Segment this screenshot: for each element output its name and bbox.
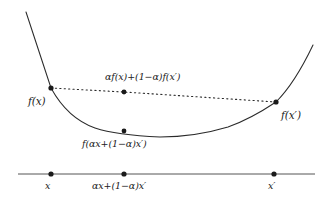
axis-label-midpoint: αx+(1−α)x′ bbox=[92, 181, 146, 191]
point-chord-mid bbox=[122, 90, 127, 95]
label-f-x: f(x) bbox=[28, 96, 46, 107]
axis-label-x-prime: x′ bbox=[268, 181, 275, 191]
point-f-mid bbox=[122, 129, 127, 134]
figure-background bbox=[0, 0, 329, 200]
axis-point-xprime bbox=[271, 171, 276, 176]
label-f-x-prime: f(x′) bbox=[281, 110, 301, 121]
label-chord-value: αf(x)+(1−α)f(x′) bbox=[105, 72, 180, 82]
point-f-xprime bbox=[273, 99, 278, 104]
point-f-x bbox=[48, 85, 53, 90]
convexity-diagram bbox=[0, 0, 329, 200]
axis-point-mid bbox=[121, 171, 126, 176]
label-f-of-midpoint: f(αx+(1−α)x′) bbox=[82, 139, 147, 149]
axis-label-x: x bbox=[45, 181, 50, 191]
axis-point-x bbox=[48, 171, 53, 176]
